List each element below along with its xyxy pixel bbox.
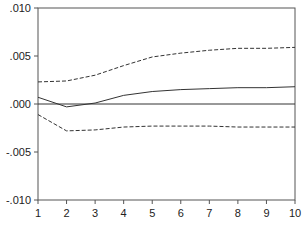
x-tick-label: 6	[178, 207, 184, 219]
y-axis-ticks: .010.005.000-.005-.010	[6, 2, 38, 206]
series-lower-band	[38, 115, 295, 131]
x-tick-label: 7	[206, 207, 212, 219]
x-tick-label: 1	[35, 207, 41, 219]
plot-frame	[38, 8, 295, 200]
x-axis-ticks: 12345678910	[35, 200, 301, 219]
x-tick-label: 10	[289, 207, 301, 219]
x-tick-label: 3	[92, 207, 98, 219]
y-tick-label: -.005	[6, 146, 31, 158]
series-lines	[38, 47, 295, 131]
y-tick-label: .000	[10, 98, 31, 110]
impulse-response-chart: .010.005.000-.005-.010 12345678910	[0, 0, 308, 229]
x-tick-label: 4	[121, 207, 127, 219]
x-tick-label: 5	[149, 207, 155, 219]
y-tick-label: .010	[10, 2, 31, 14]
y-tick-label: .005	[10, 50, 31, 62]
x-tick-label: 8	[235, 207, 241, 219]
y-tick-label: -.010	[6, 194, 31, 206]
series-upper-band	[38, 47, 295, 82]
x-tick-label: 2	[63, 207, 69, 219]
x-tick-label: 9	[263, 207, 269, 219]
